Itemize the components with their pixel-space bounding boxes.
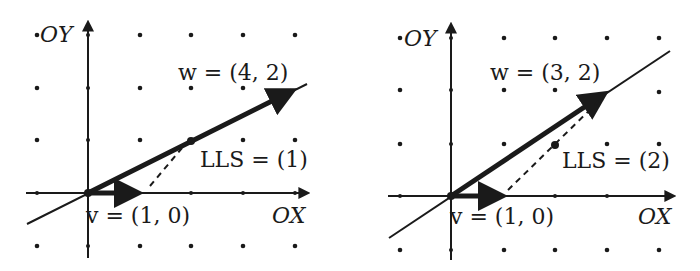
lls-point (187, 137, 195, 145)
axis-x-label: OX (272, 205, 305, 227)
lls-label: LLS = (1) (200, 149, 308, 171)
v-label: v = (1, 0) (450, 206, 554, 228)
axis-x-label: OX (638, 206, 671, 228)
w-label: w = (3, 2) (490, 62, 600, 84)
axis-y-label: OY (404, 28, 437, 50)
diagram-panel-right: OY OX w = (3, 2) LLS = (2) v = (1, 0) (350, 0, 700, 271)
lls-label: LLS = (2) (562, 150, 670, 172)
vector-w (451, 94, 604, 196)
v-label: v = (1, 0) (86, 205, 190, 227)
axis-y-label: OY (40, 24, 73, 46)
w-label: w = (4, 2) (178, 62, 288, 84)
lattice-graph-right (350, 0, 700, 271)
origin-point (84, 189, 92, 197)
origin-point (447, 192, 455, 200)
diagram-panel-left: OY OX w = (4, 2) LLS = (1) v = (1, 0) (0, 0, 350, 271)
lls-point (551, 141, 559, 149)
